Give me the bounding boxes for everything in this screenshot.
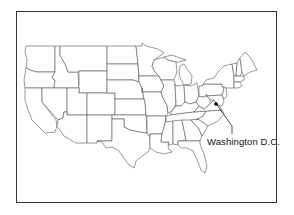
state-washington: [25, 46, 55, 72]
state-connecticut: [234, 82, 242, 88]
state-outlines: [24, 43, 257, 173]
state-southdakota: [107, 64, 139, 82]
state-kansas: [115, 99, 146, 115]
state-colorado: [87, 93, 115, 115]
state-maine: [240, 52, 257, 76]
state-northdakota: [107, 46, 138, 64]
state-wyoming: [79, 71, 107, 93]
state-florida: [178, 141, 207, 173]
washington-dc-label: Washington D.C.: [207, 136, 280, 147]
state-montana: [60, 46, 107, 72]
us-map: [0, 0, 294, 215]
state-newmexico: [87, 115, 112, 143]
state-massachusetts: [234, 76, 244, 82]
state-indiana: [175, 84, 185, 106]
